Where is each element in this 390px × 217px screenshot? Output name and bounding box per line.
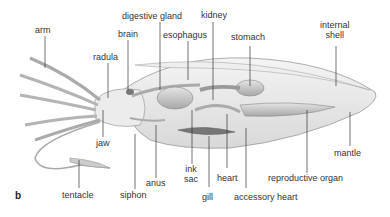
label-mantle: mantle: [334, 148, 361, 158]
label-reproductive-organ: reproductive organ: [268, 173, 343, 183]
label-stomach: stomach: [231, 32, 265, 42]
label-jaw: jaw: [96, 138, 110, 148]
label-accessory-heart: accessory heart: [234, 192, 298, 202]
label-brain: brain: [118, 29, 138, 39]
label-ink-sac: ink sac: [184, 164, 198, 184]
label-ink-sac-line2: sac: [184, 174, 198, 184]
label-internal-shell-line1: internal: [320, 20, 350, 30]
panel-letter: b: [15, 190, 21, 201]
label-siphon: siphon: [120, 190, 147, 200]
label-arm: arm: [35, 25, 51, 35]
label-gill: gill: [202, 192, 213, 202]
label-ink-sac-line1: ink: [184, 164, 198, 174]
label-esophagus: esophagus: [163, 30, 207, 40]
label-digestive-gland: digestive gland: [122, 11, 182, 21]
label-anus: anus: [146, 178, 166, 188]
label-heart: heart: [217, 173, 238, 183]
label-radula: radula: [93, 52, 118, 62]
label-tentacle: tentacle: [62, 190, 94, 200]
label-kidney: kidney: [201, 10, 227, 20]
label-internal-shell-line2: shell: [320, 30, 350, 40]
label-internal-shell: internal shell: [320, 20, 350, 40]
